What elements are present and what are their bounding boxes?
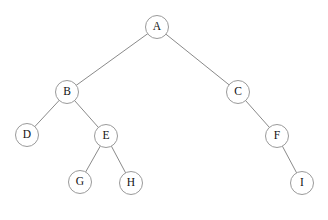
node-layer: ABCDEFGHI <box>16 16 314 195</box>
tree-node-c[interactable]: C <box>227 81 250 104</box>
tree-edge-b-e <box>75 101 99 128</box>
edge-layer <box>35 34 297 173</box>
tree-node-f[interactable]: F <box>266 125 289 148</box>
tree-node-b[interactable]: B <box>56 81 79 104</box>
tree-edge-e-g <box>86 146 101 172</box>
tree-edge-a-c <box>166 34 229 85</box>
tree-diagram-canvas: ABCDEFGHI <box>0 0 328 220</box>
tree-node-label-b: B <box>63 85 71 97</box>
tree-edge-b-d <box>35 100 59 126</box>
tree-node-label-e: E <box>102 129 109 141</box>
tree-node-d[interactable]: D <box>16 124 39 147</box>
tree-node-label-i: I <box>300 176 304 188</box>
tree-edge-c-f <box>246 101 270 128</box>
tree-node-a[interactable]: A <box>146 16 169 39</box>
tree-node-label-c: C <box>234 85 242 97</box>
tree-node-label-f: F <box>274 129 280 141</box>
tree-node-i[interactable]: I <box>291 172 314 195</box>
tree-node-e[interactable]: E <box>95 125 118 148</box>
tree-node-label-h: H <box>127 176 135 188</box>
tree-edge-a-b <box>76 34 147 86</box>
tree-node-label-a: A <box>153 20 162 32</box>
binary-tree-graphic: ABCDEFGHI <box>0 0 328 220</box>
tree-node-h[interactable]: H <box>120 172 143 195</box>
tree-node-label-d: D <box>23 128 31 140</box>
tree-edge-f-i <box>282 146 296 173</box>
tree-node-g[interactable]: G <box>69 171 92 194</box>
tree-edge-e-h <box>111 146 125 173</box>
tree-node-label-g: G <box>76 175 84 187</box>
